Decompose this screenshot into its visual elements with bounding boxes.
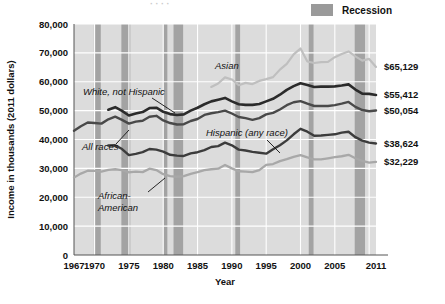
cropped-title-fragment: · · · · xyxy=(150,0,170,9)
y-axis-tick-label: 50,000 xyxy=(39,105,68,116)
y-axis-tick-label: 60,000 xyxy=(39,76,68,87)
series-annotation-hispanic: Hispanic (any race) xyxy=(206,127,288,138)
series-annotation-asian: Asian xyxy=(214,60,239,71)
y-axis-tick-label: 70,000 xyxy=(39,47,68,58)
end-value-label-hispanic: $38,624 xyxy=(384,138,419,149)
y-axis-tick-label: 0 xyxy=(63,250,68,261)
series-annotation-african-american-line2: American xyxy=(97,202,138,213)
income-by-race-line-chart: · · · ·Recession010,00020,00030,00040,00… xyxy=(0,0,445,304)
x-axis-tick-label: 1970 xyxy=(84,260,105,271)
y-axis-tick-label: 10,000 xyxy=(39,221,68,232)
x-axis-tick-label: 2000 xyxy=(290,260,311,271)
end-value-label-african-american: $32,229 xyxy=(384,156,418,167)
recession-legend-label: Recession xyxy=(342,5,392,16)
end-value-label-all-races: $50,054 xyxy=(384,105,419,116)
x-axis-tick-label: 1990 xyxy=(221,260,242,271)
series-annotation-white: White, not Hispanic xyxy=(83,86,165,97)
x-axis-tick-label: 1985 xyxy=(187,260,209,271)
x-axis-tick-label: 2011 xyxy=(366,260,387,271)
x-axis-tick-label: 1980 xyxy=(153,260,174,271)
end-value-label-asian: $65,129 xyxy=(384,61,418,72)
x-axis-title: Year xyxy=(215,276,235,287)
y-axis-title: Income in thousands (2011 dollars) xyxy=(5,60,16,218)
recession-legend-swatch xyxy=(311,4,333,16)
series-annotation-african-american-line1: African- xyxy=(97,190,131,201)
x-axis-tick-label: 1967 xyxy=(63,260,84,271)
y-axis-tick-label: 40,000 xyxy=(39,134,68,145)
x-axis-tick-label: 1975 xyxy=(118,260,140,271)
series-annotation-all-races: All races xyxy=(81,141,119,152)
y-axis-tick-label: 30,000 xyxy=(39,163,68,174)
x-axis-tick-label: 2005 xyxy=(324,260,346,271)
y-axis-tick-label: 20,000 xyxy=(39,192,68,203)
end-value-label-white: $55,412 xyxy=(384,89,418,100)
y-axis-tick-label: 80,000 xyxy=(39,19,68,30)
x-axis-tick-label: 1995 xyxy=(256,260,278,271)
